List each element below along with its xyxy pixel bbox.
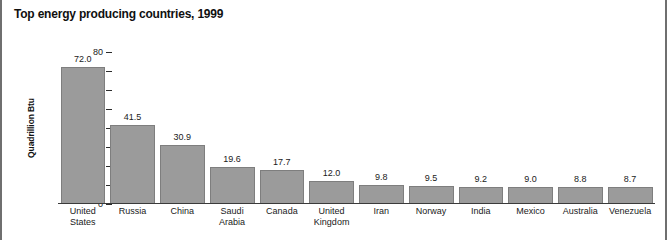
x-axis-category-label: Mexico xyxy=(506,206,556,227)
bar-slot: 8.8 xyxy=(556,52,606,204)
bar-value-label: 19.6 xyxy=(207,155,257,164)
bar-value-label: 72.0 xyxy=(58,55,108,64)
bar-slot: 12.0 xyxy=(307,52,357,204)
x-axis-category-label: Venezuela xyxy=(605,206,655,227)
bar-slot: 19.6 xyxy=(207,52,257,204)
bar-value-label: 9.0 xyxy=(506,175,556,184)
bar-slot: 72.0 xyxy=(58,52,108,204)
bar-value-label: 9.2 xyxy=(456,175,506,184)
bar[interactable] xyxy=(459,187,504,204)
bar[interactable] xyxy=(210,167,255,204)
x-axis-category-line: Arabia xyxy=(208,217,256,228)
x-axis-category-line: Saudi xyxy=(208,206,256,217)
x-axis-category-label: Iran xyxy=(357,206,407,227)
x-axis-category-line: China xyxy=(159,206,207,217)
x-axis-category-line: United xyxy=(308,206,356,217)
bar-slot: 9.5 xyxy=(406,52,456,204)
x-axis-category-label: UnitedKingdom xyxy=(307,206,357,227)
bar[interactable] xyxy=(61,67,106,204)
x-axis-category-label: SaudiArabia xyxy=(207,206,257,227)
x-axis-category-line: Venezuela xyxy=(606,206,654,217)
x-axis-category-line: Kingdom xyxy=(308,217,356,228)
bar-value-label: 30.9 xyxy=(158,133,208,142)
x-axis-category-label: Canada xyxy=(257,206,307,227)
bar-slot: 17.7 xyxy=(257,52,307,204)
x-axis-category-line: States xyxy=(59,217,107,228)
x-axis-category-line: Iran xyxy=(358,206,406,217)
x-axis-category-line: Norway xyxy=(407,206,455,217)
bar[interactable] xyxy=(558,187,603,204)
x-axis-labels: UnitedStatesRussiaChinaSaudiArabiaCanada… xyxy=(58,206,655,227)
chart-title: Top energy producing countries, 1999 xyxy=(14,7,223,21)
bar[interactable] xyxy=(260,170,305,204)
bar-value-label: 8.8 xyxy=(556,175,606,184)
bar-value-label: 12.0 xyxy=(307,169,357,178)
y-axis-title-label: Quadrillion Btu xyxy=(26,98,36,158)
bar-slot: 9.2 xyxy=(456,52,506,204)
x-axis-category-label: Norway xyxy=(406,206,456,227)
bar-value-label: 9.5 xyxy=(406,174,456,183)
bar[interactable] xyxy=(309,181,354,204)
bar[interactable] xyxy=(110,125,155,204)
bar-slot: 9.0 xyxy=(506,52,556,204)
x-axis-category-line: Canada xyxy=(258,206,306,217)
bar[interactable] xyxy=(409,186,454,204)
bar-slot: 30.9 xyxy=(158,52,208,204)
plot-area: 01020304050607080 72.041.530.919.617.712… xyxy=(58,52,655,204)
bar-value-label: 8.7 xyxy=(605,175,655,184)
y-axis-title: Quadrillion Btu xyxy=(24,52,38,204)
bar[interactable] xyxy=(160,145,205,204)
bar-slot: 9.8 xyxy=(357,52,407,204)
x-axis-category-line: Mexico xyxy=(507,206,555,217)
x-axis-category-label: UnitedStates xyxy=(58,206,108,227)
x-axis-line xyxy=(58,203,655,204)
x-axis-category-label: Russia xyxy=(108,206,158,227)
x-axis-category-line: United xyxy=(59,206,107,217)
chart-figure: Top energy producing countries, 1999 Qua… xyxy=(0,0,667,240)
bar-slot: 41.5 xyxy=(108,52,158,204)
x-axis-category-label: India xyxy=(456,206,506,227)
x-axis-category-line: Australia xyxy=(557,206,605,217)
bar[interactable] xyxy=(608,187,653,204)
bar[interactable] xyxy=(508,187,553,204)
bar-slot: 8.7 xyxy=(605,52,655,204)
bar-value-label: 41.5 xyxy=(108,113,158,122)
bar-value-label: 17.7 xyxy=(257,158,307,167)
bar-series: 72.041.530.919.617.712.09.89.59.29.08.88… xyxy=(58,52,655,204)
x-axis-category-line: Russia xyxy=(109,206,157,217)
bar[interactable] xyxy=(359,185,404,204)
bar-value-label: 9.8 xyxy=(357,173,407,182)
x-axis-category-label: China xyxy=(158,206,208,227)
x-axis-category-line: India xyxy=(457,206,505,217)
x-axis-category-label: Australia xyxy=(556,206,606,227)
